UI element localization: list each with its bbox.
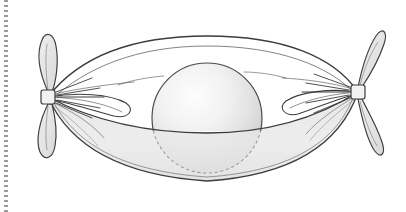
left-knot-square: [41, 90, 55, 104]
figure-page: A spherical ball enclosed in a fabric sa…: [0, 0, 406, 212]
right-knot-square: [351, 85, 365, 99]
sphere-in-sack-diagram: [0, 0, 406, 212]
sphere: [152, 63, 262, 173]
